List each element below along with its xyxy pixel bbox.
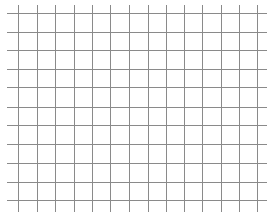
grid-vertical-line [257,5,258,212]
grid-vertical-line [55,5,56,212]
grid-vertical-line [37,5,38,212]
grid-horizontal-line [7,69,267,70]
grid-vertical-line [239,5,240,212]
grid-horizontal-line [7,32,267,33]
grid-horizontal-line [7,107,267,108]
grid-horizontal-line [7,87,267,88]
grid-horizontal-line [7,200,267,201]
grid-vertical-line [74,5,75,212]
grid-vertical-line [221,5,222,212]
grid-vertical-line [184,5,185,212]
grid-vertical-line [92,5,93,212]
grid-horizontal-line [7,182,267,183]
grid-vertical-line [166,5,167,212]
grid-vertical-line [18,5,19,212]
grid-horizontal-line [7,13,267,14]
grid-vertical-line [202,5,203,212]
grid-horizontal-line [7,144,267,145]
grid-horizontal-line [7,50,267,51]
grid-vertical-line [148,5,149,212]
grid-vertical-line [110,5,111,212]
grid-horizontal-line [7,125,267,126]
grid-paper [0,0,271,218]
grid-horizontal-line [7,163,267,164]
grid-vertical-line [129,5,130,212]
